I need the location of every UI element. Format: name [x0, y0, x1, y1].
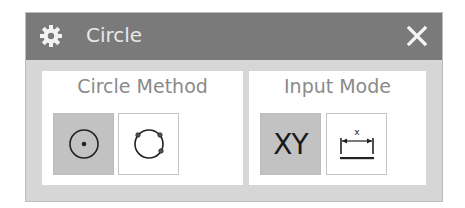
- parameter-mode-button[interactable]: x: [326, 113, 387, 175]
- input-mode-label: Input Mode: [249, 73, 426, 99]
- circle-center-point-icon: [64, 124, 104, 164]
- circle-method-label: Circle Method: [42, 73, 243, 99]
- coordinate-mode-button[interactable]: XY: [260, 113, 321, 175]
- circle-three-points-icon: [129, 124, 169, 164]
- three-point-circle-button[interactable]: [118, 113, 179, 175]
- input-mode-group: Input Mode XY x: [249, 71, 426, 185]
- dialog-title: Circle: [86, 23, 142, 47]
- title-bar[interactable]: Circle: [26, 13, 442, 60]
- svg-text:x: x: [354, 127, 360, 137]
- close-icon[interactable]: [406, 25, 428, 47]
- circle-method-group: Circle Method: [42, 71, 243, 185]
- gear-icon: [40, 25, 62, 47]
- xy-label: XY: [273, 128, 307, 161]
- dimension-parameter-icon: x: [335, 124, 379, 164]
- center-radius-circle-button[interactable]: [53, 113, 114, 175]
- circle-dialog: Circle Circle Method: [25, 12, 443, 202]
